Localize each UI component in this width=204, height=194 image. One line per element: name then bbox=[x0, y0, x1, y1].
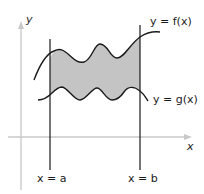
x-axis-label: x bbox=[187, 141, 194, 152]
y-axis-arrow-icon bbox=[18, 21, 24, 29]
y-axis-label: y bbox=[26, 14, 33, 25]
upper-curve-label: y = f(x) bbox=[150, 16, 192, 27]
shaded-region bbox=[50, 37, 140, 100]
right-bound-label: x = b bbox=[128, 173, 158, 184]
lower-curve-label: y = g(x) bbox=[153, 94, 198, 105]
left-bound-label: x = a bbox=[37, 173, 66, 184]
